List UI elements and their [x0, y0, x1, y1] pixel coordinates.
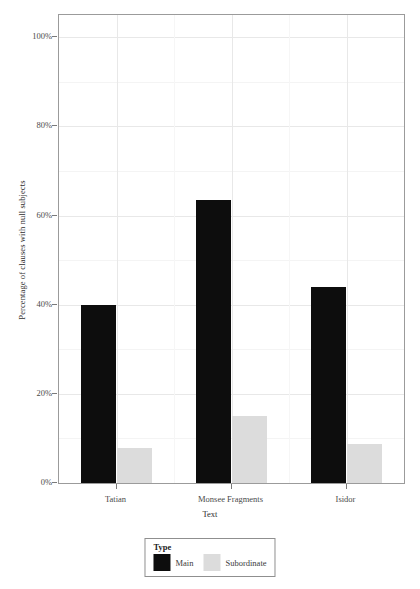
legend: Type MainSubordinate: [144, 538, 275, 577]
legend-key-swatch: [203, 554, 220, 571]
y-axis-tick-label: 0%: [18, 477, 52, 487]
gridline-major-horizontal: [59, 483, 404, 484]
bar-subordinate-isidor: [347, 444, 383, 483]
legend-item: Main: [153, 554, 193, 571]
y-axis-tick-label: 20%: [18, 388, 52, 398]
bar-main-monsee-fragments: [196, 200, 232, 483]
gridline-major-vertical: [347, 15, 348, 483]
y-axis-tick: [52, 304, 57, 305]
x-axis-tick: [346, 484, 347, 489]
x-axis-title: Text: [0, 509, 420, 519]
plot-panel: [58, 14, 405, 484]
y-axis-tick-label: 80%: [18, 120, 52, 130]
bar-main-isidor: [311, 287, 347, 483]
gridline-minor-vertical: [289, 15, 290, 483]
y-axis-tick-label: 60%: [18, 210, 52, 220]
y-axis-tick-label: 40%: [18, 299, 52, 309]
y-axis-tick-labels: 0%20%40%60%80%100%: [12, 0, 52, 589]
x-axis-tick-label: Isidor: [336, 494, 356, 504]
bar-subordinate-tatian: [117, 448, 153, 483]
y-axis-tick-label: 100%: [18, 31, 52, 41]
y-axis-tick: [52, 125, 57, 126]
gridline-major-vertical: [232, 15, 233, 483]
bar-chart: Percentage of clauses with null subjects…: [0, 0, 420, 589]
gridline-major-vertical: [117, 15, 118, 483]
bar-subordinate-monsee-fragments: [232, 416, 268, 483]
y-axis-tick: [52, 215, 57, 216]
legend-label: Subordinate: [225, 558, 266, 568]
y-axis-tick: [52, 393, 57, 394]
gridline-minor-vertical: [174, 15, 175, 483]
legend-title: Type: [153, 543, 266, 552]
x-axis-tick: [231, 484, 232, 489]
x-axis-tick-label: Monsee Fragments: [198, 494, 263, 504]
legend-item: Subordinate: [203, 554, 266, 571]
bar-main-tatian: [81, 305, 117, 483]
y-axis-tick: [52, 36, 57, 37]
legend-label: Main: [175, 558, 193, 568]
x-axis-tick-label: Tatian: [105, 494, 126, 504]
legend-key-swatch: [153, 554, 170, 571]
legend-items: MainSubordinate: [153, 554, 266, 571]
x-axis-tick: [116, 484, 117, 489]
y-axis-tick: [52, 482, 57, 483]
